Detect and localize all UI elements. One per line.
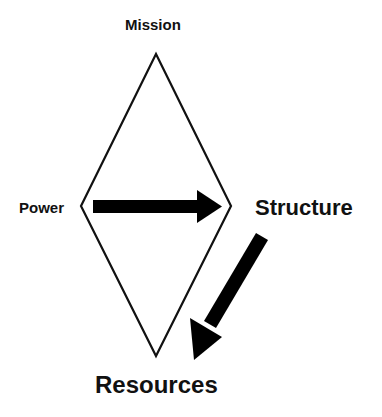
diagram-canvas: Mission Power Structure Resources bbox=[0, 0, 382, 417]
label-resources: Resources bbox=[95, 373, 218, 397]
label-mission: Mission bbox=[125, 17, 181, 32]
arrow-power-to-structure bbox=[93, 190, 222, 223]
label-structure: Structure bbox=[255, 197, 353, 219]
arrow-structure-to-resources bbox=[190, 233, 268, 360]
label-power: Power bbox=[19, 200, 64, 215]
